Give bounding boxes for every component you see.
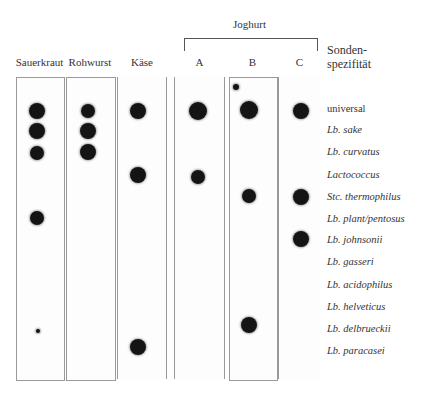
hybridization-dot (30, 146, 44, 160)
hybridization-dot (130, 339, 146, 355)
probe-label: Stc. thermophilus (327, 191, 401, 202)
joghurt-bracket (184, 38, 318, 51)
hybridization-dot (80, 123, 96, 139)
group-label-joghurt: Joghurt (233, 18, 266, 30)
hybridization-dot (241, 317, 257, 333)
blot-strip (16, 77, 65, 381)
column-label: Rohwurst (60, 56, 120, 68)
strip-edge (278, 77, 279, 379)
hybridization-dot (233, 84, 239, 90)
hybridization-dot (189, 102, 207, 120)
hybridization-dot (36, 329, 40, 333)
probe-header-line2: spezifität (327, 57, 371, 71)
strip-edge (166, 77, 167, 379)
column-label: Käse (112, 56, 172, 68)
probe-label: Lb. curvatus (327, 146, 380, 157)
probe-label: universal (327, 103, 366, 114)
probe-specificity-header: Sonden- spezifität (327, 43, 371, 71)
hybridization-dot (240, 101, 258, 119)
hybridization-dot (293, 103, 309, 119)
probe-label: Lactococcus (327, 169, 380, 180)
probe-label: Lb. acidophilus (327, 279, 392, 290)
probe-label: Lb. paracasei (327, 345, 385, 356)
hybridization-dot (191, 170, 205, 184)
strip-edge (224, 77, 225, 379)
hybridization-dot (29, 103, 45, 119)
hybridization-dot (293, 231, 309, 247)
hybridization-dot (80, 144, 96, 160)
probe-label: Lb. delbrueckii (327, 323, 391, 334)
probe-header-line1: Sonden- (327, 43, 371, 57)
hybridization-dot (130, 103, 146, 119)
strip-edge (174, 77, 175, 379)
hybridization-dot (293, 189, 309, 205)
probe-label: Lb. plant/pentosus (327, 213, 405, 224)
probe-label: Lb. sake (327, 124, 362, 135)
blot-strip (279, 77, 320, 379)
blot-strip (175, 77, 224, 379)
column-label: C (270, 56, 330, 68)
blot-strip (118, 77, 166, 379)
blot-strip (229, 77, 278, 381)
column-label: A (170, 56, 230, 68)
strip-edge (117, 77, 118, 379)
probe-label: Lb. johnsonii (327, 234, 382, 245)
hybridization-dot (81, 104, 95, 118)
hybridization-dot (242, 189, 256, 203)
hybridization-dot (30, 211, 44, 225)
hybridization-dot (29, 123, 45, 139)
hybridization-dot (130, 167, 146, 183)
probe-label: Lb. helveticus (327, 301, 385, 312)
probe-label: Lb. gasseri (327, 256, 374, 267)
